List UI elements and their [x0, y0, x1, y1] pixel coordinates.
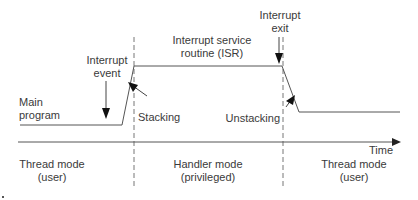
interrupt-exit-line1: Interrupt [258, 9, 302, 22]
interrupt-event-label: Interrupt event [86, 54, 128, 80]
interrupt-exit-arrow-icon [275, 53, 283, 64]
interrupt-event-line2: event [86, 67, 128, 80]
mode-sub: (user) [18, 171, 86, 184]
unstacking-pointer-icon [286, 95, 295, 105]
mode-name: Thread mode [320, 158, 388, 171]
main-program-line2: program [19, 109, 60, 122]
execution-signal [20, 66, 400, 125]
main-program-line1: Main [19, 96, 60, 109]
time-axis-label: Time [366, 144, 396, 157]
mode-sub: (user) [320, 171, 388, 184]
stacking-label: Stacking [138, 111, 180, 124]
interrupt-event-line1: Interrupt [86, 54, 128, 67]
unstacking-label: Unstacking [222, 112, 280, 125]
interrupt-event-arrow-icon [102, 108, 110, 119]
mode-thread-user-2: Thread mode (user) [320, 158, 388, 184]
isr-line2: routine (ISR) [162, 47, 262, 60]
interrupt-exit-line2: exit [258, 22, 302, 35]
mode-sub: (privileged) [170, 171, 246, 184]
mode-thread-user-1: Thread mode (user) [18, 158, 86, 184]
mode-name: Thread mode [18, 158, 86, 171]
isr-label: Interrupt service routine (ISR) [162, 34, 262, 60]
interrupt-exit-label: Interrupt exit [258, 9, 302, 35]
main-program-label: Main program [19, 96, 60, 122]
mode-handler-privileged: Handler mode (privileged) [170, 158, 246, 184]
mode-name: Handler mode [170, 158, 246, 171]
isr-line1: Interrupt service [162, 34, 262, 47]
